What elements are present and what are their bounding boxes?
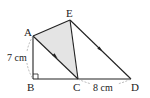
figure-lines	[33, 20, 131, 79]
measure-label-cd: 8 cm	[93, 82, 113, 93]
point-label-a: A	[24, 26, 32, 38]
point-label-b: B	[27, 81, 34, 93]
point-label-c: C	[73, 81, 80, 93]
geometry-figure: A E B C D 7 cm 8 cm	[0, 0, 150, 98]
point-label-d: D	[131, 81, 139, 93]
measure-label-ab: 7 cm	[7, 52, 27, 63]
right-angle-mark-icon	[33, 74, 38, 79]
point-label-e: E	[66, 7, 73, 19]
